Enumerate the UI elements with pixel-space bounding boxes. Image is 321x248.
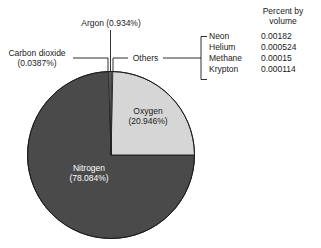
callout-label-carbon-dioxide-name: Carbon dioxide (1, 48, 73, 58)
callout-label-carbon-dioxide-percent: (0.0387%) (1, 58, 73, 68)
table-cell-value: 0.000524 (261, 42, 319, 53)
pie-label-oxygen-percent: (20.946%) (113, 116, 183, 126)
pie-chart-figure: Nitrogen (78.084%) Oxygen (20.946%) Argo… (0, 0, 321, 248)
table-row: Helium (209, 42, 255, 53)
table-header: Percent by volume (248, 6, 318, 26)
pie-label-nitrogen: Nitrogen (78.084%) (47, 163, 131, 183)
table-row: Neon (209, 31, 255, 42)
table-cell-value: 0.00015 (261, 53, 319, 64)
table-value-column: 0.00182 0.000524 0.00015 0.000114 (261, 31, 319, 75)
table-header-line2: volume (248, 16, 318, 26)
callout-label-carbon-dioxide: Carbon dioxide (0.0387%) (1, 48, 73, 68)
pie-label-nitrogen-name: Nitrogen (47, 163, 131, 173)
table-cell-value: 0.00182 (261, 31, 319, 42)
pie-label-oxygen-name: Oxygen (113, 106, 183, 116)
table-row: Methane (209, 53, 255, 64)
callout-label-argon: Argon (0.934%) (55, 18, 167, 28)
table-row: Krypton (209, 64, 255, 75)
callout-label-others: Others (128, 53, 163, 63)
table-gas-column: Neon Helium Methane Krypton (209, 31, 255, 75)
pie-label-oxygen: Oxygen (20.946%) (113, 106, 183, 126)
pie-label-nitrogen-percent: (78.084%) (47, 173, 131, 183)
table-cell-value: 0.000114 (261, 64, 319, 75)
table-header-line1: Percent by (248, 6, 318, 16)
